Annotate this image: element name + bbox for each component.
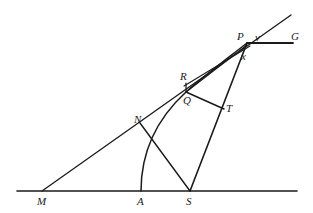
label-Q: Q <box>183 94 191 106</box>
label-M: M <box>36 195 47 207</box>
line-QT <box>186 92 224 109</box>
label-R: R <box>179 70 187 82</box>
label-v: v <box>255 31 260 43</box>
label-G: G <box>291 30 299 42</box>
label-x: x <box>240 50 246 62</box>
label-P: P <box>236 30 244 42</box>
tangent-line-MP <box>42 15 291 191</box>
label-S: S <box>186 195 192 207</box>
arc-A-Q-P <box>141 43 247 191</box>
geometric-diagram: P v G x R Q T N M A S <box>0 0 313 213</box>
line-NS <box>140 123 190 191</box>
label-N: N <box>133 113 142 125</box>
label-T: T <box>226 102 233 114</box>
label-A: A <box>136 195 144 207</box>
